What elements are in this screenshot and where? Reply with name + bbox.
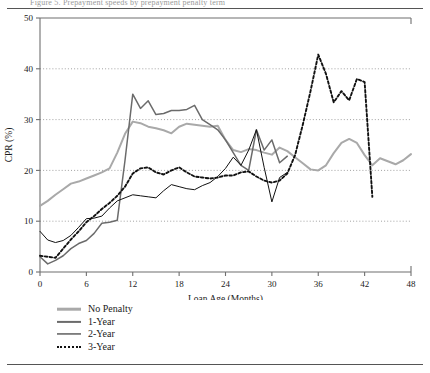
axis-ticks — [36, 18, 411, 276]
y-tick-label: 10 — [24, 216, 34, 226]
x-tick-label: 24 — [221, 279, 231, 289]
gridlines — [40, 69, 411, 221]
legend-label-2-year: 2-Year — [88, 329, 115, 339]
data-series-layer — [40, 55, 411, 264]
x-tick-label: 30 — [267, 279, 277, 289]
x-tick-label: 18 — [175, 279, 185, 289]
y-axis-title: CPR (%) — [4, 128, 15, 163]
x-axis-title: Loan Age (Months) — [188, 294, 263, 300]
legend-label-3-year: 3-Year — [88, 342, 115, 352]
series-line-3-year — [40, 55, 372, 258]
x-tick-label: 48 — [407, 279, 417, 289]
legend-item-no-penalty[interactable]: No Penalty — [57, 303, 133, 315]
legend-item-3-year[interactable]: 3-Year — [57, 341, 133, 353]
x-tick-label: 12 — [128, 279, 137, 289]
axis-lines — [40, 18, 411, 272]
legend-label-1-year: 1-Year — [88, 317, 115, 327]
x-tick-label: 0 — [38, 279, 43, 289]
x-tick-label: 6 — [84, 279, 89, 289]
bottom-horizontal-rule — [7, 364, 423, 365]
y-tick-label: 40 — [24, 64, 34, 74]
series-line-1-year — [40, 94, 287, 264]
chart-plot-area: 010203040500612182430364248 Loan Age (Mo… — [0, 10, 430, 300]
y-tick-label: 20 — [24, 166, 34, 176]
legend-item-1-year[interactable]: 1-Year — [57, 316, 133, 328]
series-line-no-penalty — [40, 122, 411, 206]
x-tick-label: 42 — [360, 279, 369, 289]
figure-page: Figure 5. Prepayment speeds by prepaymen… — [0, 0, 430, 373]
clipped-header-text: Figure 5. Prepayment speeds by prepaymen… — [30, 0, 290, 7]
chart-legend: No Penalty 1-Year 2-Year 3-Year — [57, 303, 133, 353]
x-tick-label: 36 — [314, 279, 324, 289]
line-swatch-no-penalty-icon — [57, 304, 81, 314]
line-swatch-1-year-icon — [57, 317, 81, 327]
top-horizontal-rule — [7, 8, 423, 9]
line-swatch-2-year-icon — [57, 329, 81, 339]
series-line-2-year — [40, 130, 287, 243]
y-tick-label: 50 — [24, 13, 34, 23]
line-swatch-3-year-icon — [57, 342, 81, 352]
line-chart: 010203040500612182430364248 Loan Age (Mo… — [0, 10, 430, 300]
y-tick-label: 30 — [24, 115, 34, 125]
y-tick-label: 0 — [29, 267, 34, 277]
legend-item-2-year[interactable]: 2-Year — [57, 328, 133, 340]
legend-label-no-penalty: No Penalty — [88, 304, 133, 314]
axis-tick-labels: 010203040500612182430364248 — [24, 13, 416, 289]
